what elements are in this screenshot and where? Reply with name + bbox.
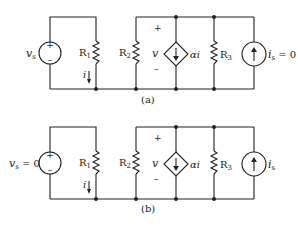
- is-label-a: is = 0: [268, 48, 296, 62]
- current-i-label-a: i: [83, 69, 86, 80]
- r2-label-a: R2: [119, 47, 131, 60]
- dep-source-label-b: αi: [190, 159, 200, 170]
- circuit-a: + – vs R1 R2 R3 i + v – αi is = 0 (a): [26, 15, 296, 105]
- caption-b: (b): [141, 203, 155, 214]
- r1-label-b: R1: [79, 157, 91, 170]
- is-label-b: is: [268, 158, 276, 172]
- vs-minus-b: –: [48, 165, 53, 175]
- caption-a: (a): [141, 94, 155, 105]
- r1-label-a: R1: [79, 47, 91, 60]
- v-label-b: v: [152, 157, 159, 170]
- r3-label-a: R3: [220, 49, 232, 62]
- vs-plus-b: +: [46, 150, 54, 160]
- v-minus-a: –: [154, 64, 159, 74]
- r2-label-b: R2: [119, 157, 131, 170]
- vs-label-a: vs: [26, 47, 36, 61]
- v-plus-a: +: [154, 23, 162, 33]
- vs-plus-a: +: [46, 40, 54, 50]
- vs-label-b: vs = 0: [9, 157, 40, 171]
- r3-label-b: R3: [220, 159, 232, 172]
- current-i-label-b: i: [83, 179, 86, 190]
- circuit-b: + – vs = 0 R1 R2 R3 i + v – αi is (b): [9, 125, 276, 214]
- vs-minus-a: –: [48, 55, 53, 65]
- v-plus-b: +: [154, 133, 162, 143]
- v-minus-b: –: [154, 174, 159, 184]
- circuit-diagram: + – vs R1 R2 R3 i + v – αi is = 0 (a) + …: [0, 0, 298, 230]
- dep-source-label-a: αi: [190, 49, 200, 60]
- v-label-a: v: [152, 47, 159, 60]
